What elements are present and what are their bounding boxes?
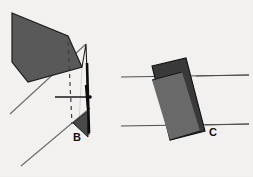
panel-c-label: C — [209, 126, 217, 138]
technical-figure-panel: B C — [0, 0, 253, 177]
panel-b-arrow-endpoint-dot — [88, 95, 92, 99]
figure-canvas: B C — [0, 0, 253, 177]
panel-b-label: B — [73, 131, 81, 143]
